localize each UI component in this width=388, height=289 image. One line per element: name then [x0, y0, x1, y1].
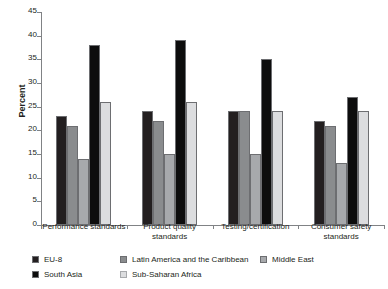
legend-swatch-icon [32, 256, 39, 263]
bar [347, 97, 358, 225]
bar [142, 111, 153, 225]
legend-label: Latin America and the Caribbean [132, 255, 249, 264]
y-tick-mark [37, 59, 42, 60]
y-tick-label: 10 [13, 172, 37, 181]
bar [67, 126, 78, 225]
x-tick-mark [384, 225, 385, 229]
legend-swatch-icon [120, 256, 127, 263]
legend-label: EU-8 [44, 255, 62, 264]
legend-item[interactable]: Middle East [260, 252, 314, 267]
legend-item[interactable]: South Asia [32, 267, 82, 282]
bar-group [142, 12, 197, 225]
bar [153, 121, 164, 225]
y-tick-label: 35 [13, 53, 37, 62]
legend-label: Sub-Saharan Africa [132, 270, 201, 279]
bar-group [228, 12, 283, 225]
bar-group [56, 12, 111, 225]
y-tick-label: 45 [13, 6, 37, 15]
category-label: Testing/certification [213, 222, 299, 232]
y-tick-label: 5 [13, 195, 37, 204]
bar [186, 102, 197, 225]
y-tick-mark [37, 154, 42, 155]
y-tick-mark [37, 83, 42, 84]
y-axis-line [41, 12, 42, 225]
bar [164, 154, 175, 225]
bar [56, 116, 67, 225]
y-tick-mark [37, 36, 42, 37]
y-tick-mark [37, 107, 42, 108]
legend-label: South Asia [44, 270, 82, 279]
bar [325, 126, 336, 225]
legend-row-bottom: South AsiaSub-Saharan Africa [32, 267, 382, 282]
y-tick-mark [37, 178, 42, 179]
bar-chart: Percent 051015202530354045 Performance s… [0, 0, 388, 289]
chart-legend: EU-8Latin America and the CaribbeanMiddl… [32, 252, 382, 282]
legend-item[interactable]: EU-8 [32, 252, 62, 267]
y-tick-mark [37, 201, 42, 202]
bar [272, 111, 283, 225]
y-tick-label: 20 [13, 124, 37, 133]
bar [89, 45, 100, 225]
legend-item[interactable]: Latin America and the Caribbean [120, 252, 249, 267]
y-tick-label: 15 [13, 148, 37, 157]
y-tick-mark [37, 130, 42, 131]
category-label: Product quality standards [127, 222, 213, 242]
plot-area: 051015202530354045 [41, 12, 384, 225]
category-label: Performance standards [41, 222, 127, 232]
category-label: Consumer safety standards [298, 222, 384, 242]
legend-row-top: EU-8Latin America and the CaribbeanMiddl… [32, 252, 382, 267]
y-tick-label: 40 [13, 30, 37, 39]
bar [175, 40, 186, 225]
y-tick-label: 0 [13, 219, 37, 228]
y-tick-mark [37, 12, 42, 13]
bar [239, 111, 250, 225]
legend-swatch-icon [120, 271, 127, 278]
y-tick-label: 30 [13, 77, 37, 86]
legend-label: Middle East [272, 255, 314, 264]
bar-group [314, 12, 369, 225]
y-tick-label: 25 [13, 101, 37, 110]
bar [250, 154, 261, 225]
bar [314, 121, 325, 225]
legend-item[interactable]: Sub-Saharan Africa [120, 267, 201, 282]
legend-swatch-icon [32, 271, 39, 278]
bar [261, 59, 272, 225]
bar [100, 102, 111, 225]
bar [358, 111, 369, 225]
bar [78, 159, 89, 225]
legend-swatch-icon [260, 256, 267, 263]
bar [228, 111, 239, 225]
bar [336, 163, 347, 225]
